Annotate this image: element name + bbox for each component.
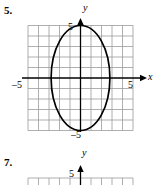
y-axis-arrowhead bbox=[77, 165, 83, 172]
y-axis-tick-label-5: 5 bbox=[69, 169, 74, 179]
problem-number-7: 7. bbox=[4, 157, 12, 168]
x-axis-arrowhead bbox=[140, 75, 147, 81]
x-axis-tick-label-negative-5: –5 bbox=[12, 80, 22, 90]
problem-7-figure: y 5 bbox=[0, 145, 161, 185]
y-axis-arrowhead bbox=[77, 18, 83, 25]
worksheet-page: y x 5 –5 5 –5 5. bbox=[0, 0, 161, 185]
x-axis-label: x bbox=[148, 72, 152, 82]
y-axis-tick-label-5: 5 bbox=[68, 22, 73, 32]
problem-number-5: 5. bbox=[4, 5, 12, 16]
y-axis-label: y bbox=[82, 148, 86, 158]
y-axis-label: y bbox=[83, 3, 87, 13]
problem-7-graph bbox=[0, 145, 161, 185]
x-axis-tick-label-5: 5 bbox=[128, 80, 133, 90]
y-axis-tick-label-negative-5: –5 bbox=[71, 130, 81, 140]
problem-5-graph bbox=[0, 0, 161, 145]
problem-5-figure: y x 5 –5 5 –5 bbox=[0, 0, 161, 145]
